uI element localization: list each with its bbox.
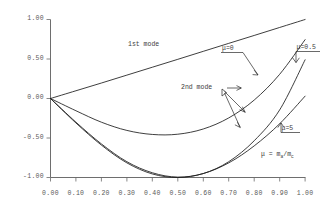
y-tick-label-1: 1.00 (14, 15, 44, 23)
x-tick-label-7: 0.60 (189, 190, 217, 198)
x-tick-label-9: 0.80 (240, 190, 268, 198)
x-tick-label-1: 0.00 (37, 190, 65, 198)
annotation-second-mode: 2nd mode (181, 84, 212, 92)
mu-def-mid: /m (283, 151, 291, 158)
annotation-first-mode: 1st mode (128, 41, 159, 49)
y-tick-label-3: 0.00 (14, 94, 44, 102)
x-tick-label-6: 0.50 (164, 190, 192, 198)
curve-first-mode (51, 20, 306, 99)
x-tick-label-10: 0.90 (266, 190, 294, 198)
x-tick-marks (51, 178, 306, 182)
mode-shape-chart: 1.00 0.50 0.00 -0.50 -1.00 0.00 0.10 0.2… (0, 0, 335, 209)
y-tick-label-5: -1.00 (12, 173, 44, 181)
x-tick-label-4: 0.30 (113, 190, 141, 198)
annotation-mu-five: μ=5 (282, 125, 294, 133)
x-tick-label-11: 1.00 (291, 190, 319, 198)
mu-def-sub-c: c (291, 154, 294, 159)
y-tick-label-2: 0.50 (14, 55, 44, 63)
leader-second-mode (222, 86, 245, 128)
y-tick-marks (47, 20, 51, 178)
y-tick-label-4: -0.50 (12, 134, 44, 142)
leader-mu-0 (221, 53, 258, 76)
plot-area (0, 0, 335, 209)
annotation-mu-zero: μ=0 (222, 45, 234, 53)
annotation-mu-definition: μ = ma/mc (261, 151, 294, 161)
x-tick-label-8: 0.70 (215, 190, 243, 198)
mu-def-lead: μ = m (261, 151, 281, 158)
x-tick-label-5: 0.40 (138, 190, 166, 198)
leader-mu-0-5 (293, 52, 320, 63)
x-tick-label-2: 0.10 (62, 190, 90, 198)
x-tick-label-3: 0.20 (87, 190, 115, 198)
curve-second-mode-mu-5 (51, 96, 306, 177)
annotation-mu-half: μ=0.5 (297, 44, 317, 52)
